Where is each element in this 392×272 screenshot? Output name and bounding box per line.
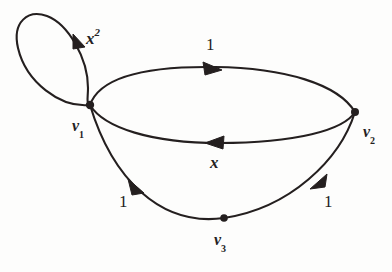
edge-v2-v3-v1-lower-path — [90, 105, 355, 219]
edge-label-self-loop-exponent: 2 — [95, 26, 101, 38]
edge-v1-v2-top-arrowhead — [203, 62, 222, 75]
edge-label-v3-v1-lower-left: 1 — [119, 193, 128, 210]
vertex-label-v2-subscript: 2 — [370, 135, 375, 146]
vertex-label-v1: v1 — [72, 118, 84, 137]
vertex-label-v3: v3 — [214, 232, 226, 251]
edge-label-v3-v1-text: 1 — [119, 192, 128, 211]
vertex-dot-v1 — [86, 101, 94, 109]
vertex-label-v2: v2 — [363, 124, 375, 143]
edge-label-v2-v1-middle: x — [210, 154, 219, 171]
edge-label-v2-v3-lower-right: 1 — [324, 193, 333, 210]
edge-v1-v2-top-path — [90, 67, 355, 112]
edge-label-v1-v2-top-text: 1 — [206, 35, 215, 54]
vertex-dot-v2 — [351, 108, 359, 116]
vertex-label-v1-subscript: 1 — [79, 129, 84, 140]
edge-label-v2-v1-middle-text: x — [210, 153, 219, 172]
edge-v2-v1-middle-arrowhead — [205, 136, 224, 149]
vertex-label-v3-subscript: 3 — [221, 243, 226, 254]
vertex-dot-v3 — [220, 214, 228, 222]
graph-drawing — [0, 0, 392, 272]
edge-label-self-loop-x-squared: x2 — [86, 28, 100, 47]
edge-v3-v1-arrowhead — [128, 179, 144, 195]
edge-self-loop-v1-arrowhead — [73, 34, 85, 49]
edge-label-v1-v2-top: 1 — [206, 36, 215, 53]
edge-label-self-loop-base: x — [86, 29, 95, 48]
edge-label-v2-v3-text: 1 — [324, 192, 333, 211]
edge-self-loop-v1-path — [17, 14, 90, 105]
diagram-canvas: x2 1 x 1 1 v1 v2 v3 — [0, 0, 392, 272]
